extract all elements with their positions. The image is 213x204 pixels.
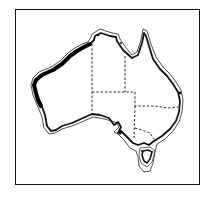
offshore-boundary [31,29,183,172]
qld-border [135,92,178,108]
island-dot [179,92,182,95]
highlighted-coast [34,44,90,106]
island-dot [97,34,100,37]
island-dot [119,132,122,135]
australia-map [0,0,213,204]
tasmania-outline [142,150,152,163]
state-borders [92,44,178,139]
island-dot [141,150,143,152]
sa-border [134,106,135,138]
island-dot [151,151,153,153]
nsw-vic-border [135,128,154,139]
coastline [34,33,180,145]
island-dot [120,42,122,44]
